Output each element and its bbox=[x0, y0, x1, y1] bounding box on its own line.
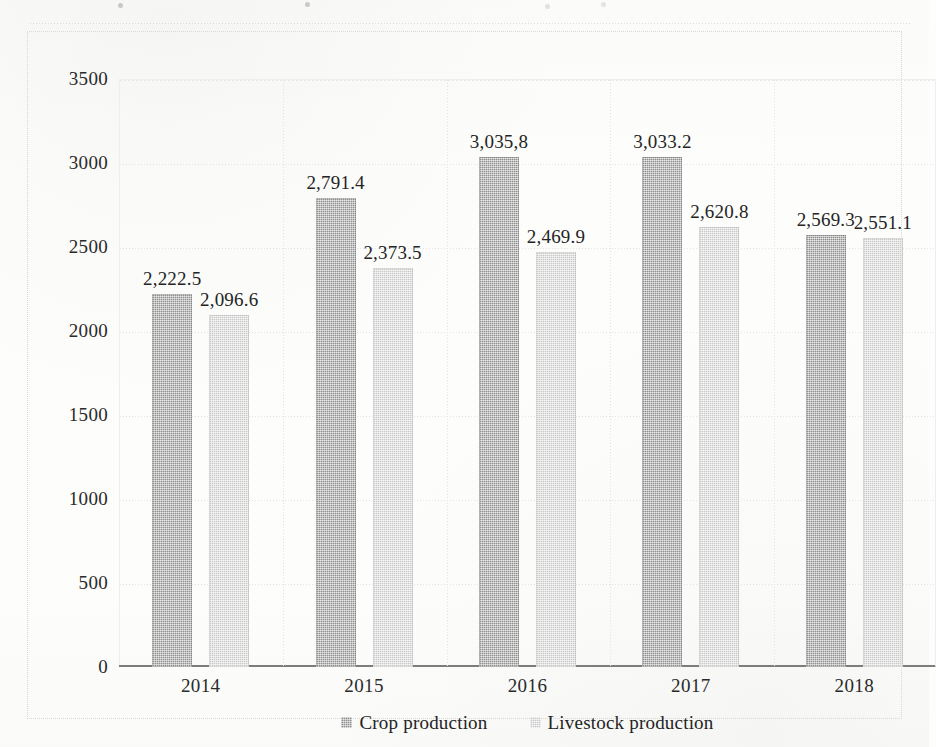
y-axis-tick-label: 2000 bbox=[34, 321, 108, 340]
legend-label: Crop production bbox=[359, 713, 487, 732]
x-axis-tick-label-2014: 2014 bbox=[119, 675, 282, 697]
bar-livestock-2018[interactable] bbox=[863, 238, 903, 667]
y-axis-tick-label: 0 bbox=[34, 657, 108, 676]
legend-label: Livestock production bbox=[548, 713, 714, 732]
bar-value-label: 2,222.5 bbox=[143, 269, 201, 288]
bar-value-label: 2,569.3 bbox=[797, 210, 855, 229]
legend-item-crop[interactable]: Crop production bbox=[341, 713, 487, 732]
bar-group-2014: 2,222.52,096.6 bbox=[119, 79, 282, 667]
chart-legend: Crop productionLivestock production bbox=[119, 713, 936, 732]
bar-group-2015: 2,791.42,373.5 bbox=[282, 79, 445, 667]
bar-slot: 2,620.8 bbox=[699, 79, 739, 667]
bar-pair: 3,033.22,620.8 bbox=[609, 79, 772, 667]
x-axis-tick-label-2018: 2018 bbox=[773, 675, 936, 697]
bar-value-label: 2,791.4 bbox=[306, 173, 364, 192]
bar-crop-2014[interactable] bbox=[152, 294, 192, 667]
bar-value-label: 2,469.9 bbox=[527, 227, 585, 246]
bar-crop-2017[interactable] bbox=[642, 157, 682, 667]
bar-slot: 3,035,8 bbox=[479, 79, 519, 667]
bar-series-container: 2,222.52,096.62,791.42,373.53,035,82,469… bbox=[119, 79, 936, 667]
bar-slot: 2,096.6 bbox=[209, 79, 249, 667]
bar-value-label: 2,373.5 bbox=[363, 243, 421, 262]
bar-pair: 3,035,82,469.9 bbox=[446, 79, 609, 667]
y-axis-tick-label: 3500 bbox=[34, 69, 108, 88]
bar-crop-2015[interactable] bbox=[316, 198, 356, 667]
y-axis-tick-label: 1000 bbox=[34, 489, 108, 508]
bar-slot: 2,569.3 bbox=[806, 79, 846, 667]
y-axis-tick-label: 3000 bbox=[34, 153, 108, 172]
bar-slot: 2,222.5 bbox=[152, 79, 192, 667]
bar-value-label: 2,620.8 bbox=[690, 202, 748, 221]
bar-slot: 2,791.4 bbox=[316, 79, 356, 667]
chart-frame: 3500300025002000150010005000 2,222.52,09… bbox=[27, 31, 902, 719]
bar-livestock-2017[interactable] bbox=[699, 227, 739, 667]
bar-group-2018: 2,569.32,551.1 bbox=[773, 79, 936, 667]
x-axis-tick-label-2016: 2016 bbox=[446, 675, 609, 697]
legend-item-livestock[interactable]: Livestock production bbox=[530, 713, 714, 732]
scan-artifact-line bbox=[30, 23, 910, 24]
legend-swatch-crop-icon bbox=[341, 717, 352, 728]
bar-group-2016: 3,035,82,469.9 bbox=[446, 79, 609, 667]
bar-crop-2016[interactable] bbox=[479, 157, 519, 667]
bar-slot: 2,551.1 bbox=[863, 79, 903, 667]
y-axis-tick-label: 500 bbox=[34, 573, 108, 592]
bar-group-2017: 3,033.22,620.8 bbox=[609, 79, 772, 667]
bar-slot: 2,469.9 bbox=[536, 79, 576, 667]
bar-slot: 2,373.5 bbox=[373, 79, 413, 667]
bar-livestock-2016[interactable] bbox=[536, 252, 576, 667]
bar-value-label: 2,551.1 bbox=[854, 213, 912, 232]
y-axis: 3500300025002000150010005000 bbox=[28, 79, 108, 667]
bar-value-label: 3,033.2 bbox=[633, 132, 691, 151]
y-axis-tick-label: 1500 bbox=[34, 405, 108, 424]
bar-crop-2018[interactable] bbox=[806, 235, 846, 667]
bar-slot: 3,033.2 bbox=[642, 79, 682, 667]
x-axis: 20142015201620172018 bbox=[119, 675, 936, 697]
bar-value-label: 3,035,8 bbox=[470, 132, 528, 151]
x-axis-tick-label-2017: 2017 bbox=[609, 675, 772, 697]
bar-livestock-2014[interactable] bbox=[209, 315, 249, 667]
bar-pair: 2,569.32,551.1 bbox=[773, 79, 936, 667]
bar-livestock-2015[interactable] bbox=[373, 268, 413, 667]
x-axis-tick-label-2015: 2015 bbox=[282, 675, 445, 697]
bar-pair: 2,791.42,373.5 bbox=[282, 79, 445, 667]
y-axis-tick-label: 2500 bbox=[34, 237, 108, 256]
bar-pair: 2,222.52,096.6 bbox=[119, 79, 282, 667]
scan-artifact-specks bbox=[0, 0, 929, 16]
legend-swatch-livestock-icon bbox=[530, 717, 541, 728]
bar-value-label: 2,096.6 bbox=[200, 290, 258, 309]
